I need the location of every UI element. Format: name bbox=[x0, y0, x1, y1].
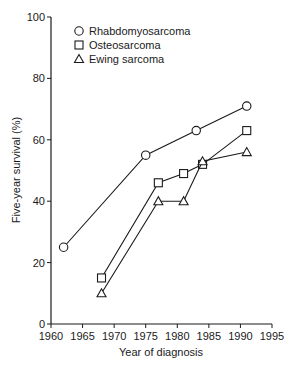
y-tick-label: 20 bbox=[33, 257, 45, 269]
triangle-legend-icon bbox=[75, 55, 84, 63]
circle-legend-icon bbox=[75, 27, 83, 35]
square-marker-icon bbox=[180, 170, 188, 178]
triangle-marker-icon bbox=[97, 289, 106, 297]
circle-marker-icon bbox=[243, 102, 251, 110]
series-layer bbox=[59, 102, 251, 297]
series-osteosarcoma bbox=[98, 127, 251, 282]
legend-label: Ewing sarcoma bbox=[89, 53, 165, 65]
square-legend-icon bbox=[75, 41, 83, 49]
square-marker-icon bbox=[98, 274, 106, 282]
y-tick-label: 100 bbox=[27, 11, 45, 23]
x-tick-label: 1980 bbox=[165, 330, 189, 342]
circle-marker-icon bbox=[59, 243, 67, 251]
y-tick-label: 40 bbox=[33, 195, 45, 207]
y-tick-label: 80 bbox=[33, 72, 45, 84]
series-line bbox=[64, 106, 247, 247]
x-tick-label: 1960 bbox=[39, 330, 63, 342]
x-tick-label: 1965 bbox=[70, 330, 94, 342]
x-tick-label: 1995 bbox=[260, 330, 284, 342]
square-marker-icon bbox=[154, 179, 162, 187]
chart-canvas: 0204060801001960196519701975198019851990… bbox=[0, 0, 296, 371]
square-marker-icon bbox=[243, 127, 251, 135]
y-tick-label: 0 bbox=[39, 318, 45, 330]
series-rhabdomyosarcoma bbox=[59, 102, 251, 252]
circle-marker-icon bbox=[142, 151, 150, 159]
x-tick-label: 1970 bbox=[102, 330, 126, 342]
legend-item: Rhabdomyosarcoma bbox=[75, 25, 192, 37]
legend: RhabdomyosarcomaOsteosarcomaEwing sarcom… bbox=[75, 25, 192, 65]
legend-item: Ewing sarcoma bbox=[75, 53, 166, 65]
series-line bbox=[102, 152, 247, 293]
circle-marker-icon bbox=[192, 126, 200, 134]
series-line bbox=[102, 131, 247, 278]
legend-label: Rhabdomyosarcoma bbox=[89, 25, 191, 37]
x-tick-label: 1975 bbox=[133, 330, 157, 342]
survival-chart: 0204060801001960196519701975198019851990… bbox=[0, 0, 296, 371]
legend-label: Osteosarcoma bbox=[89, 39, 161, 51]
x-axis-title: Year of diagnosis bbox=[119, 346, 203, 358]
x-tick-label: 1990 bbox=[228, 330, 252, 342]
y-axis-title: Five-year survival (%) bbox=[10, 117, 22, 223]
x-tick-label: 1985 bbox=[197, 330, 221, 342]
series-ewing-sarcoma bbox=[97, 148, 251, 297]
triangle-marker-icon bbox=[242, 148, 251, 156]
legend-item: Osteosarcoma bbox=[75, 39, 161, 51]
y-tick-label: 60 bbox=[33, 134, 45, 146]
